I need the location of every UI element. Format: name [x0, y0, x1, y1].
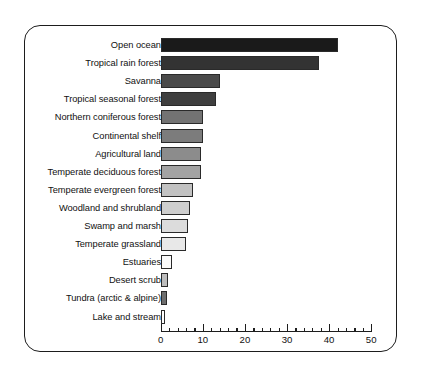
bar [161, 201, 190, 215]
x-axis-minor-tick [236, 328, 237, 333]
bar [161, 219, 188, 233]
bar-category-label: Northern coniferous forest [55, 112, 161, 123]
bar-row: Temperate evergreen forest [0, 183, 423, 197]
bar-row: Swamp and marsh [0, 219, 423, 233]
bar-row: Desert scrub [0, 273, 423, 287]
bar-category-label: Tundra (arctic & alpine) [66, 293, 161, 304]
bar [161, 310, 165, 324]
x-axis-tick-label: 40 [324, 334, 335, 345]
x-axis-minor-tick [178, 328, 179, 333]
x-axis-major-tick [161, 324, 162, 332]
x-axis-major-tick [245, 324, 246, 332]
bar-category-label: Continental shelf [93, 130, 161, 141]
bar-category-label: Agricultural land [95, 148, 161, 159]
x-axis-tick-label: 0 [158, 334, 163, 345]
x-axis-tick-label: 10 [197, 334, 208, 345]
x-axis-minor-tick [228, 328, 229, 333]
bar-category-label: Estuaries [123, 257, 161, 268]
x-axis-major-tick [287, 324, 288, 332]
x-axis-minor-tick [321, 328, 322, 333]
bar-row: Continental shelf [0, 129, 423, 143]
bar [161, 38, 338, 52]
x-axis-minor-tick [220, 328, 221, 333]
x-axis-major-tick [329, 324, 330, 332]
bar [161, 165, 201, 179]
bar [161, 183, 193, 197]
x-axis-line [161, 331, 372, 332]
x-axis-minor-tick [253, 328, 254, 333]
bar-row: Open ocean [0, 38, 423, 52]
bar-chart-plot-area: Open oceanTropical rain forestSavannaTro… [0, 0, 423, 376]
bar-category-label: Desert scrub [109, 275, 161, 286]
bar [161, 291, 167, 305]
bar [161, 110, 203, 124]
bar [161, 129, 203, 143]
bar-row: Tundra (arctic & alpine) [0, 291, 423, 305]
bar [161, 147, 201, 161]
bar-category-label: Savanna [125, 76, 161, 87]
bar [161, 237, 186, 251]
bar-category-label: Lake and stream [92, 311, 161, 322]
bar-row: Woodland and shrubland [0, 201, 423, 215]
bar-category-label: Tropical seasonal forest [64, 94, 161, 105]
x-axis-minor-tick [312, 328, 313, 333]
bar [161, 56, 319, 70]
x-axis-minor-tick [186, 328, 187, 333]
x-axis-major-tick [203, 324, 204, 332]
bar-category-label: Temperate deciduous forest [48, 166, 161, 177]
x-axis-minor-tick [354, 328, 355, 333]
bar-row: Temperate grassland [0, 237, 423, 251]
x-axis-minor-tick [304, 328, 305, 333]
x-axis-minor-tick [338, 328, 339, 333]
bar-row: Tropical seasonal forest [0, 92, 423, 106]
x-axis-minor-tick [363, 328, 364, 333]
x-axis-minor-tick [346, 328, 347, 333]
x-axis-tick-label: 20 [240, 334, 251, 345]
bar [161, 273, 168, 287]
bar-category-label: Woodland and shrubland [59, 202, 161, 213]
bar-row: Lake and stream [0, 310, 423, 324]
bar [161, 255, 172, 269]
x-axis-tick-label: 30 [282, 334, 293, 345]
bar-row: Temperate deciduous forest [0, 165, 423, 179]
bar-row: Northern coniferous forest [0, 110, 423, 124]
x-axis-minor-tick [262, 328, 263, 333]
bar [161, 92, 216, 106]
bar-row: Agricultural land [0, 147, 423, 161]
x-axis-minor-tick [295, 328, 296, 333]
figure-canvas: Open oceanTropical rain forestSavannaTro… [0, 0, 423, 376]
x-axis-minor-tick [169, 328, 170, 333]
x-axis-minor-tick [279, 328, 280, 333]
bar-row: Estuaries [0, 255, 423, 269]
bar-category-label: Temperate evergreen forest [48, 184, 161, 195]
bar-category-label: Temperate grassland [75, 239, 161, 250]
x-axis-minor-tick [194, 328, 195, 333]
bar-category-label: Open ocean [111, 40, 161, 51]
x-axis-minor-tick [270, 328, 271, 333]
bar-category-label: Tropical rain forest [85, 58, 161, 69]
bar-row: Savanna [0, 74, 423, 88]
x-axis-tick-label: 50 [366, 334, 377, 345]
bar [161, 74, 220, 88]
x-axis-major-tick [371, 324, 372, 332]
x-axis-minor-tick [211, 328, 212, 333]
bar-category-label: Swamp and marsh [84, 221, 161, 232]
bar-row: Tropical rain forest [0, 56, 423, 70]
